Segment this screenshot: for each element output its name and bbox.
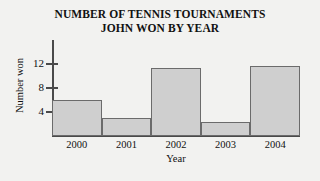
bars-layer bbox=[52, 40, 300, 136]
x-axis-title: Year bbox=[52, 153, 300, 165]
x-axis-tick-label-2004: 2004 bbox=[250, 139, 300, 151]
chart-title: NUMBER OF TENNIS TOURNAMENTS JOHN WON BY… bbox=[0, 8, 320, 35]
chart-title-line-1: NUMBER OF TENNIS TOURNAMENTS bbox=[0, 8, 320, 22]
x-axis-tick-label-2003: 2003 bbox=[201, 139, 251, 151]
x-axis-tick-label-2001: 2001 bbox=[102, 139, 152, 151]
bar-2001 bbox=[102, 118, 152, 136]
bar-2000 bbox=[52, 100, 102, 136]
bar-2003 bbox=[201, 122, 251, 136]
bar-2004 bbox=[250, 66, 300, 136]
x-axis-tick-label-2002: 2002 bbox=[151, 139, 201, 151]
chart-title-line-2: JOHN WON BY YEAR bbox=[0, 22, 320, 36]
x-axis-tick-label-2000: 2000 bbox=[52, 139, 102, 151]
bar-chart-figure: NUMBER OF TENNIS TOURNAMENTS JOHN WON BY… bbox=[0, 0, 320, 181]
bar-2002 bbox=[151, 68, 201, 136]
y-axis-title: Number won bbox=[14, 51, 25, 121]
